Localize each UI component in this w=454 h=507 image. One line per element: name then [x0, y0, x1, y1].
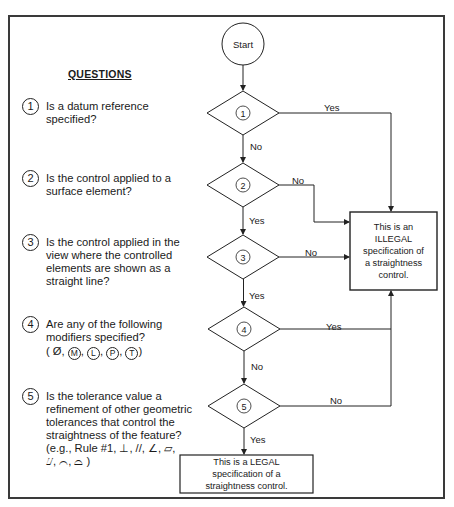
edge-d5-yes: Yes [250, 434, 266, 445]
edge-d3-no: No [305, 247, 317, 258]
start-label: Start [233, 39, 253, 50]
edge-d5-no: No [330, 395, 342, 406]
legal-line-1: This is a LEGAL [180, 456, 313, 468]
illegal-result-text: This is an ILLEGAL specification of a st… [350, 221, 437, 281]
edge-d1-yes: Yes [324, 102, 340, 113]
legal-result-text: This is a LEGAL specification of a strai… [180, 456, 313, 492]
legal-line-2: specification of a [180, 468, 313, 480]
legal-line-3: straightness control. [180, 480, 313, 492]
edge-d3-yes: Yes [249, 290, 265, 301]
edge-d2-no: No [292, 175, 304, 186]
decision-5-number: 5 [241, 402, 246, 412]
edge-d1-no: No [250, 141, 262, 152]
illegal-line-5: control. [350, 269, 437, 281]
illegal-line-4: a straightness [350, 257, 437, 269]
illegal-line-3: specification of [350, 245, 437, 257]
edge-d2-yes: Yes [249, 215, 265, 226]
decision-4-number: 4 [241, 325, 246, 335]
decision-3-number: 3 [240, 253, 245, 263]
decision-1-number: 1 [240, 109, 245, 119]
edge-d4-yes: Yes [326, 321, 342, 332]
illegal-line-2: ILLEGAL [350, 233, 437, 245]
illegal-line-1: This is an [350, 221, 437, 233]
edge-d4-no: No [251, 361, 263, 372]
decision-2-number: 2 [240, 181, 245, 191]
